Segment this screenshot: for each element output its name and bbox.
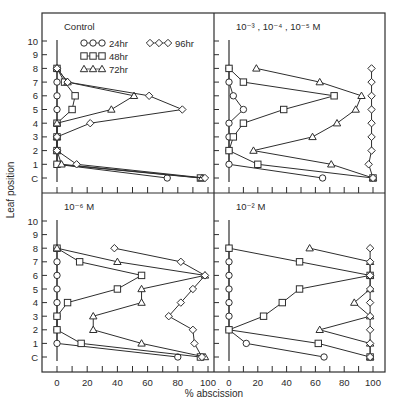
y-tick-label: 8 [33,243,38,254]
y-tick-label: 9 [33,229,38,240]
x-tick-label: 80 [339,377,350,388]
x-tick-label: 40 [281,377,292,388]
y-tick-label: 2 [33,145,38,156]
series-96hr [111,245,209,361]
y-tick-label: 4 [33,297,38,308]
y-tick-label: 7 [33,77,38,88]
panel-title: Control [64,21,95,32]
y-tick-label: 10 [27,216,38,227]
x-tick-label: 0 [54,377,59,388]
y-tick-label: 9 [33,49,38,60]
y-tick-label: 6 [33,270,38,281]
svg-text:24hr: 24hr [109,38,128,49]
panel-low-conc: 10⁻³ , 10⁻⁴ , 10⁻⁵ M [214,21,377,193]
y-tick-label: 3 [33,131,38,142]
legend-item-96hr: 96hr [146,38,194,49]
y-tick-label: 6 [33,90,38,101]
legend: 24hr48hr72hr96hr [80,38,194,75]
x-tick-label: 60 [310,377,321,388]
x-tick-label: 20 [253,377,264,388]
x-tick-label: 100 [200,377,216,388]
series-48hr [226,65,376,181]
abscission-figure: C12345678910Control10⁻³ , 10⁻⁴ , 10⁻⁵ MC… [0,0,398,406]
y-tick-label: C [31,352,38,363]
y-tick-label: C [31,173,38,184]
x-tick-label: 80 [173,377,184,388]
y-tick-label: 5 [33,284,38,295]
panel-1e-6: C1234567891002040608010010⁻⁶ M [27,201,216,388]
y-tick-label: 2 [33,324,38,335]
legend-item-24hr: 24hr [81,38,128,49]
panel-1e-2: 02040608010010⁻² M [214,201,381,388]
y-tick-label: 4 [33,118,38,129]
x-tick-label: 100 [365,377,381,388]
x-tick-label: 0 [226,377,231,388]
legend-item-72hr: 72hr [80,64,128,75]
x-tick-label: 40 [112,377,123,388]
x-tick-label: 60 [142,377,153,388]
y-tick-label: 8 [33,63,38,74]
y-tick-label: 3 [33,311,38,322]
y-tick-label: 5 [33,104,38,115]
panel-title: 10⁻⁶ M [64,201,94,212]
svg-text:72hr: 72hr [109,64,128,75]
y-tick-label: 1 [33,338,38,349]
series-96hr [365,65,377,182]
legend-item-48hr: 48hr [81,51,128,62]
svg-text:96hr: 96hr [175,38,194,49]
y-tick-label: 10 [27,36,38,47]
series-96hr [366,245,373,361]
svg-text:48hr: 48hr [109,51,128,62]
panel-title: 10⁻³ , 10⁻⁴ , 10⁻⁵ M [236,21,320,32]
y-tick-label: 1 [33,159,38,170]
x-axis-label: % abscission [185,388,243,399]
y-axis-label: Leaf position [5,162,16,219]
panel-title: 10⁻² M [236,201,265,212]
x-tick-label: 20 [82,377,93,388]
series-96hr [53,65,208,182]
y-tick-label: 7 [33,256,38,267]
series-72hr [250,65,377,181]
panels: C12345678910Control10⁻³ , 10⁻⁴ , 10⁻⁵ MC… [27,21,381,388]
